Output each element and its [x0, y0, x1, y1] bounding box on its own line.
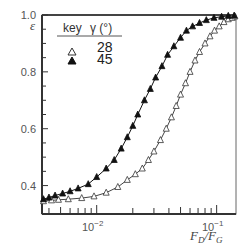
open-triangle-marker: [124, 176, 130, 182]
y-axis-label: ε: [30, 18, 36, 33]
filled-triangle-marker: [183, 27, 189, 33]
filled-triangle-icon: [68, 57, 76, 64]
open-triangle-marker: [192, 57, 198, 63]
open-triangle-marker: [151, 148, 157, 154]
chart-canvas: 0.40.60.81.0 10−210−1 ε FD/FG key γ (°) …: [0, 0, 249, 251]
open-triangle-marker: [163, 125, 169, 131]
filled-triangle-marker: [147, 85, 153, 91]
open-triangle-marker: [187, 68, 193, 74]
filled-triangle-marker: [85, 181, 91, 187]
y-tick-label: 0.8: [21, 66, 36, 78]
legend-header-key: key: [63, 21, 82, 35]
legend-value-45: 45: [97, 51, 113, 67]
svg-text:FD/FG: FD/FG: [189, 228, 223, 245]
open-triangle-marker: [132, 171, 138, 177]
legend: key γ (°) 28 45: [57, 21, 122, 67]
filled-triangle-marker: [135, 111, 141, 117]
open-triangle-marker: [115, 183, 121, 189]
filled-triangle-marker: [159, 63, 165, 69]
legend-header-gamma: γ (°): [90, 21, 112, 35]
y-axis-ticks: 0.40.60.81.0: [21, 9, 48, 214]
y-tick-label: 0.6: [21, 123, 36, 135]
filled-triangle-marker: [94, 174, 100, 180]
x-tick-label: 10−2: [82, 219, 104, 233]
open-triangle-marker: [178, 91, 184, 97]
filled-triangle-marker: [153, 74, 159, 80]
open-triangle-marker: [173, 102, 179, 108]
x-axis-label: FD/FG: [189, 228, 223, 245]
open-triangle-marker: [182, 80, 188, 86]
open-triangle-marker: [168, 114, 174, 120]
filled-triangle-marker: [124, 134, 130, 140]
open-triangle-icon: [68, 48, 76, 55]
y-tick-label: 0.4: [21, 180, 36, 192]
filled-triangle-marker: [141, 97, 147, 103]
data-points: [40, 12, 237, 204]
open-triangle-marker: [157, 137, 163, 143]
filled-triangle-marker: [118, 145, 124, 151]
filled-triangle-marker: [130, 122, 136, 128]
